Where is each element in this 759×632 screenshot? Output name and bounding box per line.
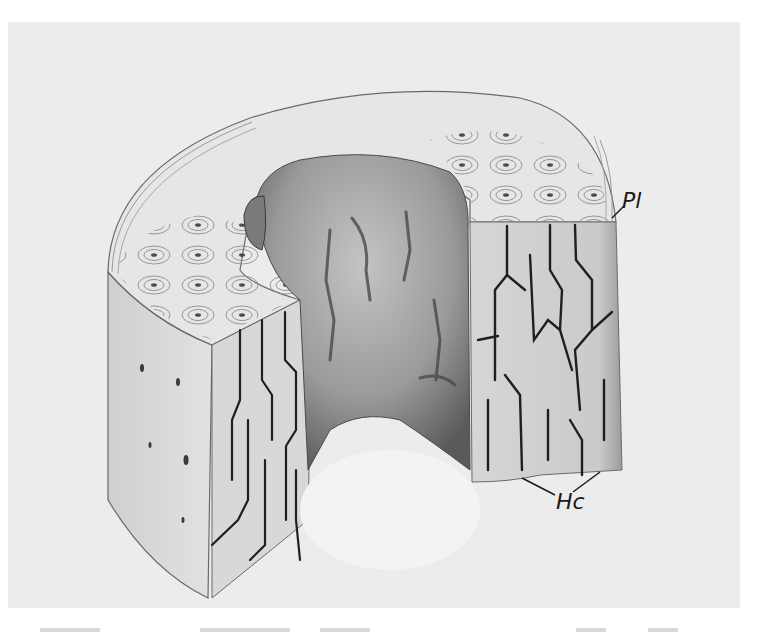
caption-clipped <box>0 622 759 632</box>
cut-face-right <box>470 222 622 482</box>
marrow-cavity-opening <box>300 450 480 570</box>
bone-illustration <box>0 0 759 632</box>
label-haversian-canals: Hc <box>556 491 585 513</box>
figure-plate <box>8 22 740 608</box>
label-periosteal-lamellae: Pl <box>622 190 641 212</box>
